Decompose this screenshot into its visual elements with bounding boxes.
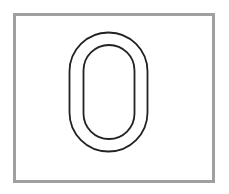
outer-outline	[70, 33, 148, 152]
outlined-digit-zero	[0, 0, 229, 194]
inner-outline	[84, 45, 135, 139]
